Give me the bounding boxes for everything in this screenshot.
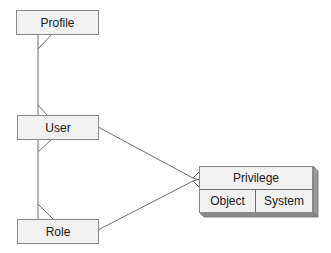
subtype-system-label: System (264, 194, 304, 208)
entity-label: Role (46, 225, 71, 239)
er-diagram: Profile User Role Privilege Object Syste… (0, 0, 331, 253)
entity-label: Privilege (233, 171, 279, 185)
relationship-user-role (38, 139, 53, 219)
profile-one-marker (38, 34, 52, 49)
entity-profile[interactable]: Profile (17, 11, 99, 35)
entity-privilege[interactable]: Privilege Object System (199, 166, 318, 217)
entity-role[interactable]: Role (18, 220, 99, 244)
entity-label: Profile (40, 16, 74, 30)
privilege-shadow-right (313, 166, 318, 217)
entity-user[interactable]: User (18, 116, 99, 140)
role-marker (38, 204, 53, 219)
user-marker (38, 139, 52, 152)
user-many-marker (38, 105, 47, 115)
entity-label: User (45, 121, 70, 135)
relationship-profile-user (38, 34, 52, 115)
privilege-crowfoot-upper-a (193, 172, 199, 178)
relationship-user-privilege (98, 127, 199, 180)
privilege-crowfoot-lower-a (193, 181, 199, 187)
subtype-object-label: Object (210, 194, 245, 208)
relationship-role-privilege (98, 179, 199, 230)
